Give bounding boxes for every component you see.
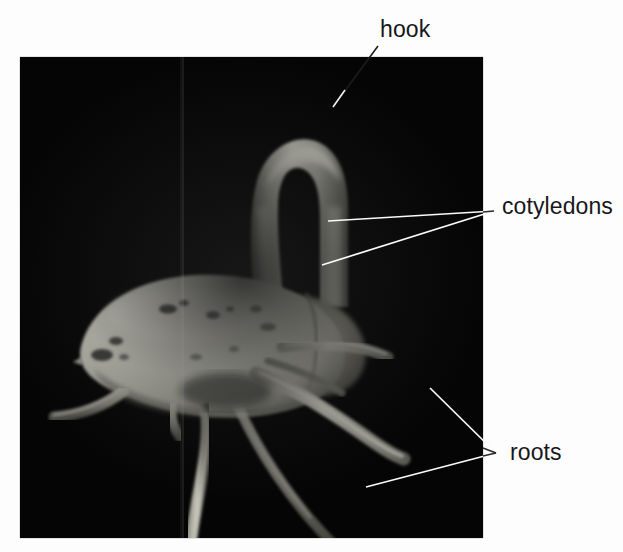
specimen-photograph [20,57,483,538]
label-hook: hook [380,18,430,41]
figure-root: hook cotyledons roots [0,0,623,552]
label-roots: roots [510,441,562,464]
seedling-specimen [20,57,483,538]
label-cotyledons: cotyledons [502,195,613,218]
